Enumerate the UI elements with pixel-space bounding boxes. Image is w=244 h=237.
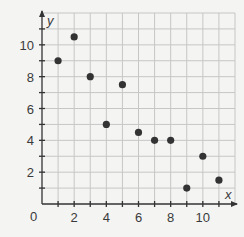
data-point bbox=[71, 33, 78, 40]
data-point bbox=[183, 184, 190, 191]
data-point bbox=[167, 137, 174, 144]
data-point bbox=[215, 177, 222, 184]
data-point bbox=[151, 137, 158, 144]
tick-marks bbox=[39, 29, 219, 207]
x-tick-label: 10 bbox=[196, 210, 210, 225]
y-tick-label: 2 bbox=[27, 165, 34, 180]
x-tick-label: 8 bbox=[167, 210, 174, 225]
y-tick-label: 4 bbox=[27, 133, 34, 148]
data-point bbox=[135, 129, 142, 136]
y-tick-label: 6 bbox=[27, 102, 34, 117]
scatter-plot: 246810246810 x y 0 bbox=[0, 0, 244, 237]
grid bbox=[42, 13, 235, 204]
data-point bbox=[119, 81, 126, 88]
y-tick-label: 8 bbox=[27, 70, 34, 85]
y-axis-label: y bbox=[46, 13, 55, 28]
x-tick-label: 4 bbox=[103, 210, 110, 225]
tick-labels: 246810246810 bbox=[20, 38, 211, 225]
data-point bbox=[199, 153, 206, 160]
y-tick-label: 10 bbox=[20, 38, 34, 53]
origin-label: 0 bbox=[30, 209, 37, 224]
x-tick-label: 6 bbox=[135, 210, 142, 225]
data-point bbox=[103, 121, 110, 128]
x-axis-label: x bbox=[224, 187, 232, 202]
data-point bbox=[87, 73, 94, 80]
x-tick-label: 2 bbox=[71, 210, 78, 225]
data-point bbox=[54, 57, 61, 64]
